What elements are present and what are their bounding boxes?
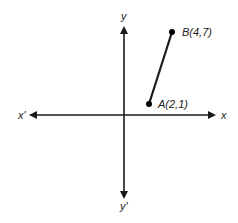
point-b-label: B(4,7) [182, 26, 212, 38]
x-axis-label: x [220, 109, 227, 121]
y-axis-label: y [120, 10, 128, 22]
point-a-label: A(2,1) [157, 98, 188, 110]
x-neg-axis-label: x' [17, 109, 27, 121]
segment-ab [149, 32, 172, 104]
point-b [169, 29, 175, 35]
point-a [146, 101, 152, 107]
coordinate-diagram: x x' y y' A(2,1) B(4,7) [0, 0, 238, 223]
y-neg-axis-label: y' [119, 200, 129, 212]
